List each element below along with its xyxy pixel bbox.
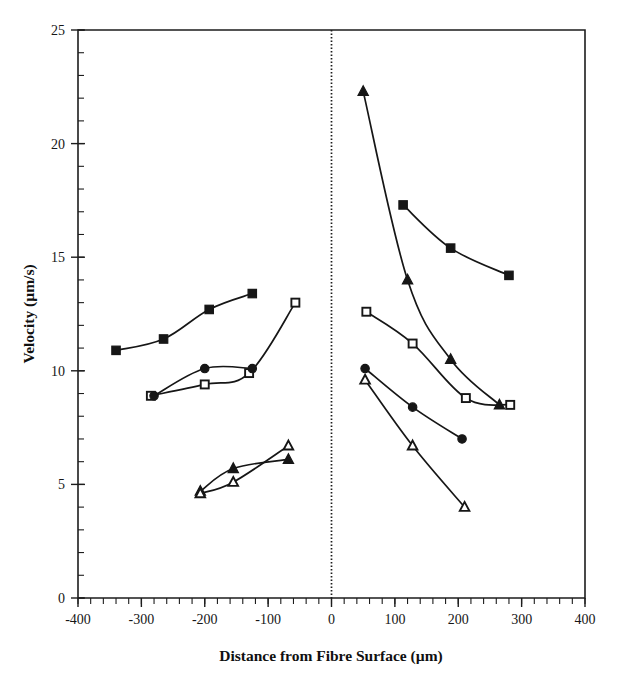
y-axis-title: Velocity (µm/s) [20, 264, 38, 363]
filled-square-marker [205, 305, 213, 313]
filled-square-marker [248, 289, 256, 297]
series-line [403, 205, 509, 275]
series-line [363, 91, 499, 405]
open-square-marker [291, 299, 299, 307]
series-line [116, 294, 252, 351]
filled-circle-marker [458, 435, 466, 443]
x-tick-label: 300 [511, 612, 532, 627]
filled-triangle-marker [283, 454, 293, 464]
x-tick-label: 200 [448, 612, 469, 627]
series-line [151, 303, 295, 396]
x-axis-tick-labels: -400-300-200-1000100200300400 [65, 612, 595, 627]
data-series [196, 441, 294, 498]
open-square-marker [201, 380, 209, 388]
filled-square-marker [112, 346, 120, 354]
y-tick-label: 0 [58, 591, 65, 606]
y-axis-minor-ticks [78, 30, 84, 598]
y-tick-label: 10 [51, 364, 65, 379]
velocity-distance-chart: -400-300-200-1000100200300400 0510152025… [0, 0, 619, 681]
filled-square-marker [159, 335, 167, 343]
open-triangle-marker [360, 375, 370, 384]
open-triangle-marker [284, 441, 294, 450]
x-tick-label: -200 [192, 612, 218, 627]
y-tick-label: 20 [51, 137, 65, 152]
x-tick-label: 100 [384, 612, 405, 627]
filled-circle-marker [150, 392, 158, 400]
y-tick-label: 15 [51, 250, 65, 265]
figure-container: -400-300-200-1000100200300400 0510152025… [0, 0, 619, 681]
filled-circle-marker [361, 364, 369, 372]
data-series [362, 308, 514, 409]
data-series [112, 289, 257, 354]
series-line [366, 312, 510, 405]
filled-circle-marker [408, 403, 416, 411]
data-series [147, 299, 299, 400]
filled-square-marker [399, 201, 407, 209]
filled-circle-marker [201, 364, 209, 372]
y-axis-tick-labels: 0510152025 [51, 23, 65, 606]
filled-circle-marker [248, 364, 256, 372]
data-series-layer [112, 86, 514, 511]
x-tick-label: -300 [129, 612, 155, 627]
filled-square-marker [505, 271, 513, 279]
open-triangle-marker [228, 477, 238, 486]
filled-square-marker [446, 244, 454, 252]
data-series [358, 86, 505, 409]
filled-triangle-marker [402, 274, 412, 284]
filled-triangle-marker [358, 86, 368, 96]
x-tick-label: -100 [255, 612, 281, 627]
open-square-marker [362, 308, 370, 316]
data-series [360, 375, 469, 511]
open-square-marker [506, 401, 514, 409]
open-square-marker [409, 340, 417, 348]
x-tick-label: 0 [328, 612, 335, 627]
y-tick-label: 25 [51, 23, 65, 38]
open-square-marker [462, 394, 470, 402]
x-tick-label: -400 [65, 612, 91, 627]
x-tick-label: 400 [575, 612, 596, 627]
series-line [200, 446, 288, 494]
x-axis-title: Distance from Fibre Surface (µm) [219, 647, 443, 665]
data-series [399, 201, 513, 280]
data-series [361, 364, 466, 443]
y-tick-label: 5 [58, 477, 65, 492]
